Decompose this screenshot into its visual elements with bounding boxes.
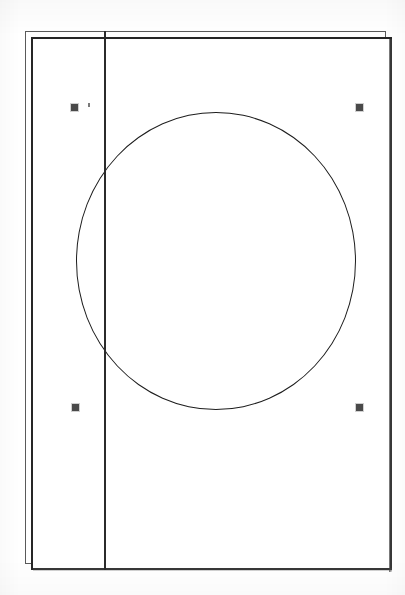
registration-mark-bottom-right [356,404,363,411]
registration-mark-bottom-left [72,404,79,411]
registration-mark-top-left [71,104,78,111]
scan-speck [88,103,90,107]
registration-mark-top-right [356,104,363,111]
large-circle [76,112,356,410]
drawing-canvas: Technical line drawing Scanned black-and… [0,0,405,595]
vertical-divider-line [104,31,106,570]
